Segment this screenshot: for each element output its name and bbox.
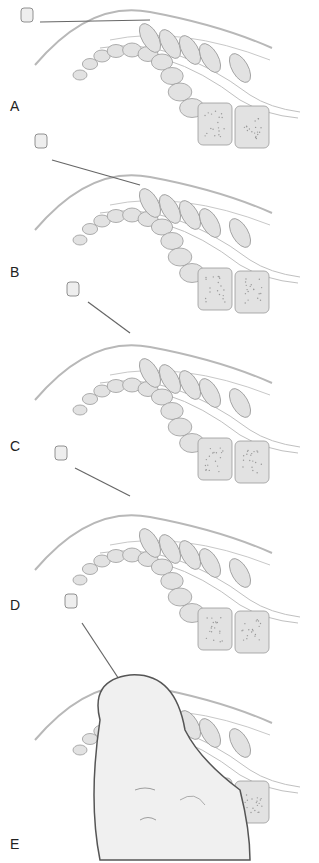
panel-label-d: D	[10, 597, 20, 613]
fetus	[94, 675, 250, 860]
spine-illustration	[0, 0, 319, 863]
panel-label-b: B	[10, 264, 19, 280]
panel-label-e: E	[10, 836, 19, 852]
panel-label-c: C	[10, 438, 20, 454]
panel-label-a: A	[10, 98, 19, 114]
panel-a	[21, 8, 300, 148]
figure: A B C D E	[0, 0, 319, 863]
